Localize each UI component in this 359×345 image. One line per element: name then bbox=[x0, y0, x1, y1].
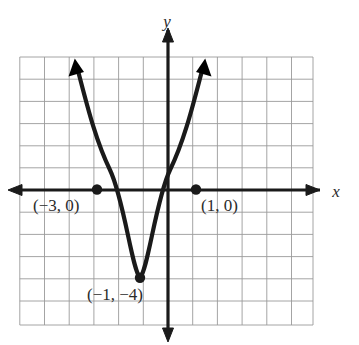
y-axis-label: y bbox=[161, 12, 171, 31]
clipped-top-text bbox=[95, 0, 265, 9]
graph-figure: x y (−3, 0) (1, 0) (−1, −4) bbox=[0, 0, 359, 345]
left-root-label: (−3, 0) bbox=[33, 196, 79, 215]
right-root-label: (1, 0) bbox=[201, 196, 238, 215]
x-axis-label: x bbox=[331, 182, 340, 201]
vertex-point bbox=[135, 273, 145, 283]
parabola-left-arm-arrow bbox=[69, 59, 85, 77]
right-root-point bbox=[191, 184, 201, 194]
labels: x y (−3, 0) (1, 0) (−1, −4) bbox=[33, 12, 340, 304]
left-root-point bbox=[92, 184, 102, 194]
parabola-right-arm-arrow bbox=[196, 59, 212, 77]
y-axis-arrow-down bbox=[163, 328, 174, 342]
marked-points bbox=[92, 184, 201, 283]
x-axis-arrow-left bbox=[8, 185, 22, 196]
vertex-label: (−1, −4) bbox=[87, 285, 143, 304]
coordinate-plane-svg: x y (−3, 0) (1, 0) (−1, −4) bbox=[0, 0, 359, 345]
